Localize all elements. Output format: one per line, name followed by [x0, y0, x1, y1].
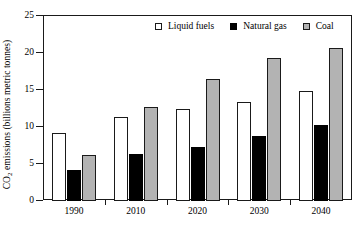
legend-label-coal: Coal — [316, 19, 334, 33]
bar-natural-gas-2020 — [191, 147, 205, 201]
bar-coal-2040 — [329, 48, 343, 201]
bar-natural-gas-2010 — [129, 154, 143, 201]
x-axis-tick-label: 2040 — [291, 205, 351, 218]
y-axis-tick-label: 0 — [0, 195, 34, 205]
y-axis-tick — [36, 200, 43, 201]
legend-label-liquid-fuels: Liquid fuels — [168, 19, 214, 33]
y-axis-tick — [36, 126, 43, 127]
open-square-swatch-icon — [155, 23, 162, 30]
bar-liquid-fuels-2010 — [114, 117, 128, 201]
bar-natural-gas-1990 — [67, 170, 81, 201]
bar-liquid-fuels-2030 — [237, 102, 251, 201]
bar-natural-gas-2040 — [314, 125, 328, 201]
x-axis-tick-label: 1990 — [44, 205, 104, 218]
y-axis-tick — [36, 89, 43, 90]
bar-coal-2020 — [206, 79, 220, 201]
legend-item-natural-gas: Natural gas — [230, 19, 287, 33]
co2-emissions-bar-chart: CO2 emissions (billions metric tonnes) 0… — [0, 0, 363, 229]
y-axis-tick-label: 5 — [0, 158, 34, 168]
y-axis-tick-label: 10 — [0, 121, 34, 131]
bar-liquid-fuels-2040 — [299, 91, 313, 201]
legend-item-coal: Coal — [303, 19, 334, 33]
legend-label-natural-gas: Natural gas — [243, 19, 287, 33]
x-axis-tick-label: 2030 — [229, 205, 289, 218]
x-axis-tick-label: 2010 — [106, 205, 166, 218]
bar-natural-gas-2030 — [252, 136, 266, 201]
bar-liquid-fuels-1990 — [52, 133, 66, 201]
y-axis-tick-label: 15 — [0, 84, 34, 94]
bar-coal-2010 — [144, 107, 158, 201]
y-axis-tick-label: 25 — [0, 10, 34, 20]
y-axis-tick — [36, 15, 43, 16]
filled-square-swatch-icon — [230, 23, 237, 30]
y-axis-title-suffix: emissions (billions metric tonnes) — [2, 40, 12, 173]
y-axis-tick — [36, 163, 43, 164]
legend-item-liquid-fuels: Liquid fuels — [155, 19, 214, 33]
gray-square-swatch-icon — [303, 23, 310, 30]
x-axis-tick-label: 2020 — [168, 205, 228, 218]
bar-coal-1990 — [82, 155, 96, 201]
bar-liquid-fuels-2020 — [176, 109, 190, 201]
chart-legend: Liquid fuels Natural gas Coal — [155, 19, 334, 33]
y-axis-tick — [36, 52, 43, 53]
y-axis-title-subscript: 2 — [6, 172, 14, 176]
y-axis-title-prefix: CO — [2, 176, 12, 189]
bar-coal-2030 — [267, 58, 281, 201]
y-axis-tick-label: 20 — [0, 47, 34, 57]
